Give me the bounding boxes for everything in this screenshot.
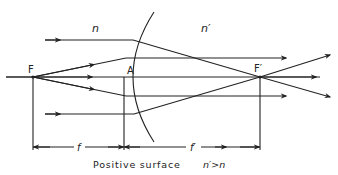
label-f-prime: f′ bbox=[190, 142, 197, 153]
label-F-prime: F′ bbox=[254, 63, 263, 74]
caption-positive-surface: Positive surface bbox=[93, 159, 181, 170]
refraction-diagram: n n′ F A F′ f f′ Positive surface n′>n bbox=[0, 0, 338, 175]
label-n: n bbox=[92, 22, 99, 35]
label-n-prime: n′ bbox=[201, 22, 211, 35]
caption-condition: n′>n bbox=[203, 159, 225, 170]
label-f: f bbox=[77, 142, 82, 153]
label-F: F bbox=[28, 64, 34, 75]
label-A: A bbox=[127, 65, 134, 76]
